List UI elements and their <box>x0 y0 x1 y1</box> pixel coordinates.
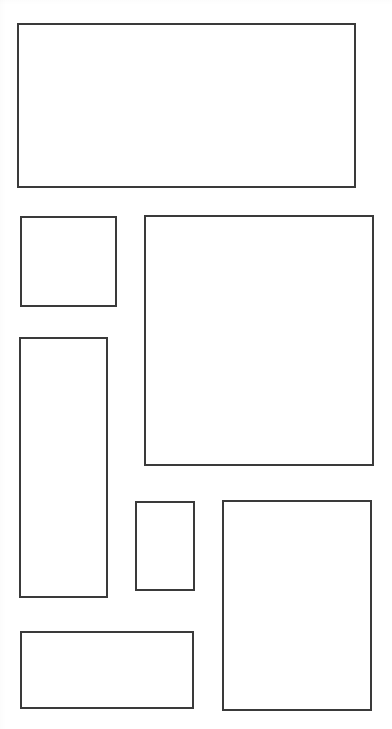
block-lower-right-panel[interactable] <box>222 500 372 711</box>
block-upper-left-square[interactable] <box>20 216 117 307</box>
block-top-banner[interactable] <box>17 23 356 188</box>
block-center-small-card[interactable] <box>135 501 195 591</box>
block-left-tall-column[interactable] <box>19 337 108 598</box>
wireframe-canvas <box>0 0 392 729</box>
block-main-right-panel[interactable] <box>144 215 374 466</box>
block-bottom-left-banner[interactable] <box>20 631 194 709</box>
